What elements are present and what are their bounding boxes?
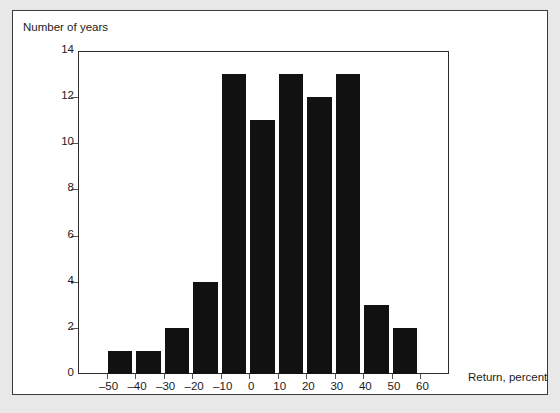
y-axis-tick-label: 6 [68, 228, 74, 240]
x-axis-tick-label: 40 [359, 380, 372, 392]
figure-panel: Number of years 02468101214 –50–40–30–20… [12, 10, 548, 395]
y-axis-tick-label: 12 [61, 89, 74, 101]
x-axis-tick-mark [249, 374, 250, 379]
histogram-bar [364, 305, 389, 374]
histogram-bar [250, 120, 275, 374]
x-axis-tick-mark [420, 374, 421, 379]
y-axis-tick-label: 2 [68, 320, 74, 332]
histogram-bar [193, 282, 218, 374]
x-axis-tick-label: 0 [248, 380, 254, 392]
histogram-bar [336, 74, 361, 374]
x-axis-title: Return, percent [468, 371, 547, 383]
x-axis-tick-label: 50 [388, 380, 401, 392]
histogram-bar [279, 74, 304, 374]
histogram-bar [108, 351, 133, 374]
x-axis-tick-mark [107, 374, 108, 379]
y-axis-title: Number of years [23, 21, 108, 33]
y-axis-tick-label: 14 [61, 43, 74, 55]
x-axis-tick-mark [363, 374, 364, 379]
x-axis-tick-label: –50 [99, 380, 118, 392]
x-axis-tick-label: –10 [213, 380, 232, 392]
histogram-bar [136, 351, 161, 374]
y-axis-tick-label: 0 [68, 366, 74, 378]
histogram-bar [393, 328, 418, 374]
x-axis-tick-label: –40 [127, 380, 146, 392]
histogram-bar [307, 97, 332, 374]
x-axis-tick-mark [335, 374, 336, 379]
x-axis-tick-label: –20 [185, 380, 204, 392]
x-axis-tick-mark [306, 374, 307, 379]
x-axis-tick-mark [221, 374, 222, 379]
y-axis-tick-label: 10 [61, 135, 74, 147]
x-axis-tick-label: 30 [330, 380, 343, 392]
y-axis-tick-label: 8 [68, 181, 74, 193]
plot-area: 02468101214 –50–40–30–20–100102030405060 [78, 51, 449, 374]
x-axis-tick-label: 10 [273, 380, 286, 392]
x-axis-tick-label: 60 [416, 380, 429, 392]
x-axis-tick-mark [192, 374, 193, 379]
y-axis-tick-label: 4 [68, 274, 74, 286]
x-axis-tick-mark [164, 374, 165, 379]
x-axis-tick-label: –30 [156, 380, 175, 392]
histogram-bar [165, 328, 190, 374]
x-axis-tick-label: 20 [302, 380, 315, 392]
x-axis-tick-mark [278, 374, 279, 379]
x-axis-tick-mark [135, 374, 136, 379]
histogram-bar [222, 74, 247, 374]
x-axis-tick-mark [392, 374, 393, 379]
